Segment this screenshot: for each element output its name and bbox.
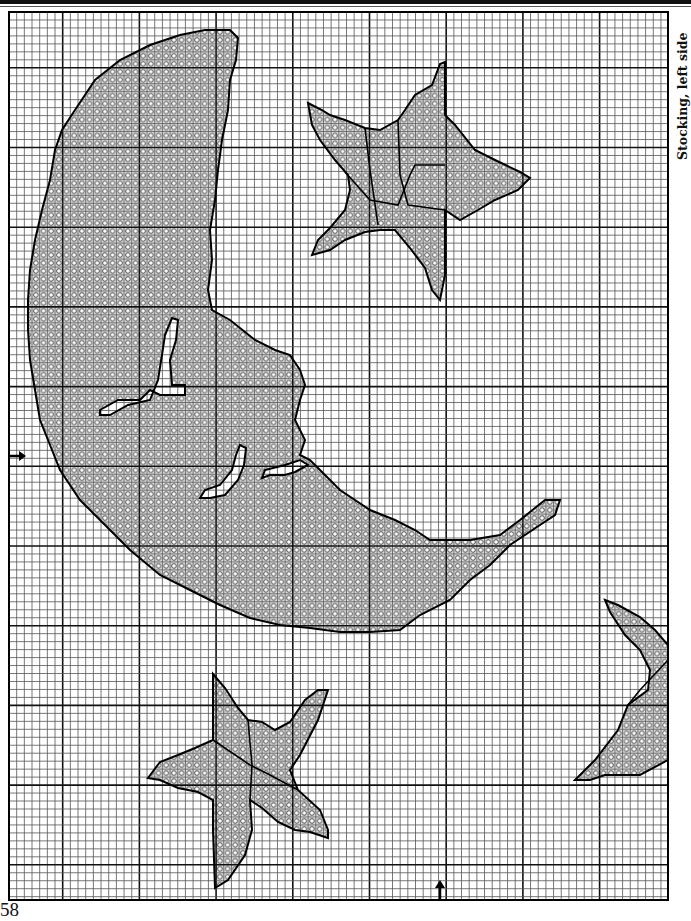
left-center-arrow-icon xyxy=(10,451,26,461)
page-title-text: Stocking, left side xyxy=(675,33,690,160)
page-title: Stocking, left side xyxy=(673,12,691,172)
star-top-shape xyxy=(308,62,530,300)
page-number: 58 xyxy=(0,899,19,921)
cross-stitch-chart xyxy=(0,0,691,921)
